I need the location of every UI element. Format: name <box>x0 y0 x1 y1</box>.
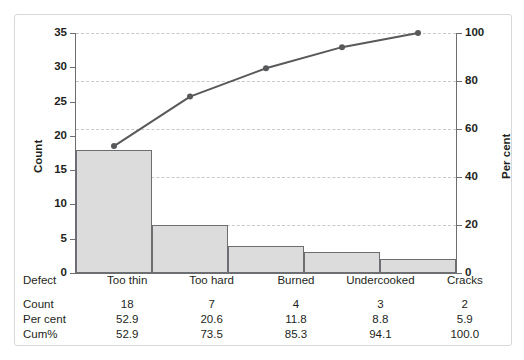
table-cell: Undercooked <box>338 273 422 297</box>
y-tick <box>70 170 76 171</box>
table-cell: 85.3 <box>254 327 338 342</box>
left-axis-line <box>75 33 76 273</box>
y2-tick-label: 20 <box>465 219 478 231</box>
table-row-label: Cum% <box>21 327 85 342</box>
y-tick-label: 35 <box>54 27 67 39</box>
y-axis-title: Count <box>32 140 44 173</box>
y2-tick <box>456 129 462 130</box>
plot-area: 05101520253035 020406080100 Count Per ce… <box>76 33 456 273</box>
y2-tick <box>456 225 462 226</box>
y2-tick-label: 40 <box>465 171 478 183</box>
pareto-summary-table: DefectToo thinToo hardBurnedUndercookedC… <box>21 273 507 342</box>
table-cell: 2 <box>423 297 507 312</box>
y-tick <box>70 204 76 205</box>
y2-axis-title: Per cent <box>500 134 512 179</box>
table-header-row: DefectToo thinToo hardBurnedUndercookedC… <box>21 273 507 297</box>
cumulative-marker <box>263 65 269 71</box>
table-cell: Too thin <box>85 273 169 297</box>
cumulative-line <box>114 33 418 146</box>
table-row-label: Defect <box>21 273 85 297</box>
y-tick-label: 15 <box>54 164 67 176</box>
y2-tick-label: 100 <box>465 27 484 39</box>
y-tick <box>70 239 76 240</box>
table-cell: 7 <box>169 297 253 312</box>
y-tick-label: 25 <box>54 96 67 108</box>
y2-tick <box>456 177 462 178</box>
table-cell: 4 <box>254 297 338 312</box>
table-cell: 5.9 <box>423 312 507 327</box>
cumulative-line-series <box>76 33 456 273</box>
table-cell: Burned <box>254 273 338 297</box>
table-cell: 8.8 <box>338 312 422 327</box>
data-table: DefectToo thinToo hardBurnedUndercookedC… <box>21 273 507 342</box>
table-cell: Too hard <box>169 273 253 297</box>
table-row-label: Count <box>21 297 85 312</box>
right-axis-line <box>456 33 457 273</box>
table-cell: 52.9 <box>85 327 169 342</box>
table-row: Count187432 <box>21 297 507 312</box>
y-tick <box>70 136 76 137</box>
table-cell: 73.5 <box>169 327 253 342</box>
cumulative-marker <box>187 94 193 100</box>
pareto-chart-figure: 05101520253035 020406080100 Count Per ce… <box>14 14 512 346</box>
y-tick-label: 5 <box>61 233 67 245</box>
cumulative-marker <box>111 143 117 149</box>
cumulative-marker <box>415 30 421 36</box>
table-cell: 52.9 <box>85 312 169 327</box>
y-tick <box>70 102 76 103</box>
cumulative-marker <box>339 44 345 50</box>
table-cell: 20.6 <box>169 312 253 327</box>
table-cell: Cracks <box>423 273 507 297</box>
table-cell: 18 <box>85 297 169 312</box>
y2-tick-label: 60 <box>465 123 478 135</box>
cumulative-markers <box>111 30 421 149</box>
y-tick-label: 30 <box>54 61 67 73</box>
y2-tick <box>456 33 462 34</box>
y-tick <box>70 67 76 68</box>
table-cell: 94.1 <box>338 327 422 342</box>
y-tick-label: 10 <box>54 198 67 210</box>
y-tick-label: 20 <box>54 130 67 142</box>
y-tick <box>70 33 76 34</box>
table-row: Cum%52.973.585.394.1100.0 <box>21 327 507 342</box>
y2-tick-label: 80 <box>465 75 478 87</box>
table-row: Per cent52.920.611.88.85.9 <box>21 312 507 327</box>
table-cell: 11.8 <box>254 312 338 327</box>
y2-tick <box>456 81 462 82</box>
table-cell: 100.0 <box>423 327 507 342</box>
table-cell: 3 <box>338 297 422 312</box>
table-row-label: Per cent <box>21 312 85 327</box>
